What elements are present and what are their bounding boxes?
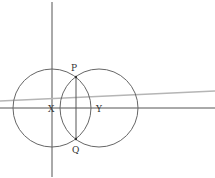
- label-q: Q: [72, 145, 79, 155]
- geometric-construction: P Q X Y: [0, 0, 215, 178]
- point-q: [75, 138, 77, 140]
- label-y: Y: [95, 104, 103, 114]
- label-p: P: [71, 63, 77, 73]
- label-x: X: [48, 104, 55, 114]
- point-p: [75, 76, 77, 78]
- slanted-line: [0, 91, 215, 101]
